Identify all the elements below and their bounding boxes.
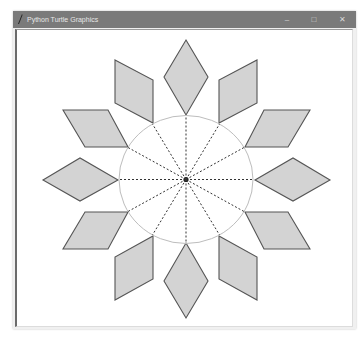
spoke-group xyxy=(119,116,253,244)
rhombus xyxy=(245,212,310,249)
rhombus xyxy=(63,212,128,249)
spoke-line xyxy=(186,148,244,180)
spoke-line xyxy=(128,148,186,180)
rhombus xyxy=(245,110,310,147)
rhombus xyxy=(255,158,330,201)
spoke-line xyxy=(128,180,186,212)
spoke-line xyxy=(153,180,187,235)
rhombus xyxy=(63,110,128,147)
rhombus xyxy=(164,40,208,115)
rhombus xyxy=(115,236,153,300)
spoke-line xyxy=(186,124,220,179)
rhombus xyxy=(115,60,153,123)
turtle-drawing xyxy=(0,0,363,337)
rhombus xyxy=(164,243,208,318)
spoke-line xyxy=(186,180,220,235)
spoke-line xyxy=(186,180,244,212)
rhombus xyxy=(219,236,257,300)
spoke-line xyxy=(153,124,187,179)
rhombus xyxy=(219,60,257,123)
rhombus xyxy=(43,158,118,201)
